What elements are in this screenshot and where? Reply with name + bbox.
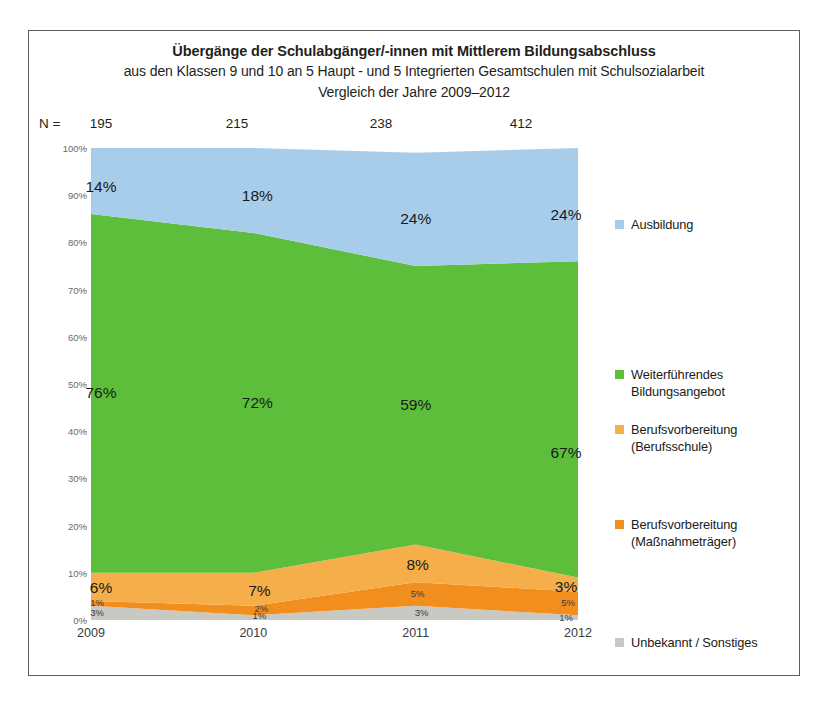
y-tick-mark [83, 573, 87, 574]
sample-size-row: N = 195 215 238 412 [29, 116, 799, 134]
y-tick-label: 40% [53, 426, 87, 437]
n-label: N = [39, 116, 60, 131]
area-series-3 [91, 214, 578, 577]
y-tick-label: 20% [53, 520, 87, 531]
x-tick-label-2012: 2012 [564, 626, 592, 640]
y-tick-label: 70% [53, 284, 87, 295]
y-tick-label: 50% [53, 379, 87, 390]
chart-titles: Übergänge der Schulabgänger/-innen mit M… [29, 41, 799, 103]
y-tick-mark [83, 148, 87, 149]
y-tick-label: 100% [53, 143, 87, 154]
y-tick-label: 10% [53, 567, 87, 578]
legend-item[interactable]: Berufsvorbereitung (Maßnahmeträger) [615, 517, 805, 550]
plot-area [91, 148, 578, 620]
y-tick-mark [83, 431, 87, 432]
n-value-2010: 215 [226, 116, 249, 131]
legend-item[interactable]: Weiterführendes Bildungsangebot [615, 367, 805, 400]
x-tick-label-2009: 2009 [77, 626, 105, 640]
n-value-2012: 412 [510, 116, 533, 131]
y-tick-label: 80% [53, 237, 87, 248]
x-tick-label-2011: 2011 [402, 626, 429, 640]
y-tick-mark [83, 242, 87, 243]
y-tick-mark [83, 290, 87, 291]
chart-frame: Übergänge der Schulabgänger/-innen mit M… [28, 30, 800, 676]
y-tick-label: 90% [53, 190, 87, 201]
n-value-2011: 238 [370, 116, 393, 131]
x-tick-label-2010: 2010 [239, 626, 267, 640]
legend-swatch-icon [615, 370, 624, 379]
y-tick-mark [83, 478, 87, 479]
legend-swatch-icon [615, 425, 624, 434]
y-axis: 0%10%20%30%40%50%60%70%80%90%100% [29, 148, 87, 620]
legend-swatch-icon [615, 520, 624, 529]
legend-label: Unbekannt / Sonstiges [631, 635, 758, 652]
y-tick-mark [83, 620, 87, 621]
y-tick-mark [83, 195, 87, 196]
y-tick-label: 30% [53, 473, 87, 484]
y-tick-label: 0% [53, 615, 87, 626]
y-tick-mark [83, 337, 87, 338]
legend-item[interactable]: Ausbildung [615, 217, 693, 234]
chart-title: Übergänge der Schulabgänger/-innen mit M… [29, 41, 799, 61]
legend-item[interactable]: Unbekannt / Sonstiges [615, 635, 758, 652]
chart-subtitle-2: Vergleich der Jahre 2009–2012 [29, 82, 799, 103]
n-value-2009: 195 [90, 116, 113, 131]
legend-swatch-icon [615, 220, 624, 229]
legend-label: Ausbildung [631, 217, 693, 234]
legend-label: Berufsvorbereitung (Berufsschule) [631, 422, 805, 455]
legend-label: Berufsvorbereitung (Maßnahmeträger) [631, 517, 805, 550]
legend-swatch-icon [615, 638, 624, 647]
y-tick-label: 60% [53, 331, 87, 342]
legend-label: Weiterführendes Bildungsangebot [631, 367, 805, 400]
chart-subtitle: aus den Klassen 9 und 10 an 5 Haupt - un… [29, 61, 799, 82]
y-tick-mark [83, 526, 87, 527]
y-tick-mark [83, 384, 87, 385]
legend-item[interactable]: Berufsvorbereitung (Berufsschule) [615, 422, 805, 455]
